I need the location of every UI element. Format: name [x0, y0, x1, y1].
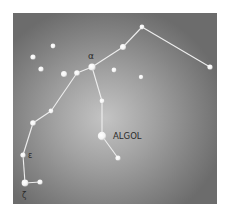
star-f6 — [139, 75, 143, 79]
star-f3 — [38, 66, 43, 71]
star-f5 — [112, 68, 117, 73]
algol-label: ALGOL — [113, 131, 142, 141]
constellation-line — [23, 155, 25, 183]
zeta-label: ζ — [22, 191, 26, 200]
star-epsilon — [20, 152, 25, 157]
star-s4 — [74, 70, 80, 76]
star-algol — [98, 132, 106, 140]
star-s5 — [120, 44, 126, 50]
star-s1 — [37, 179, 42, 184]
star-s3 — [49, 109, 54, 114]
star-zeta — [22, 180, 29, 187]
star-f4 — [61, 71, 67, 77]
star-f1 — [51, 44, 56, 49]
constellation-line — [142, 27, 210, 67]
stars — [20, 25, 212, 187]
star-s9 — [115, 155, 120, 160]
constellation-line — [123, 27, 142, 47]
constellation-line — [92, 47, 123, 67]
constellation-line — [33, 111, 51, 123]
star-chart: α ALGOL ε ζ — [0, 0, 227, 216]
constellation-line — [51, 73, 77, 111]
constellation-line — [92, 67, 102, 101]
alpha-label: α — [88, 51, 94, 61]
star-f2 — [30, 54, 35, 59]
star-s2 — [30, 120, 36, 126]
star-alpha — [88, 63, 95, 70]
star-s8 — [100, 99, 105, 104]
star-s7 — [207, 64, 212, 69]
epsilon-label: ε — [28, 151, 32, 160]
star-s6 — [140, 25, 145, 30]
